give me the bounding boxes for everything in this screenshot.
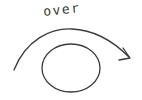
- over-diagram: over: [0, 0, 142, 100]
- ellipse-object: [42, 44, 100, 92]
- arc-arrow-shaft: [14, 29, 129, 70]
